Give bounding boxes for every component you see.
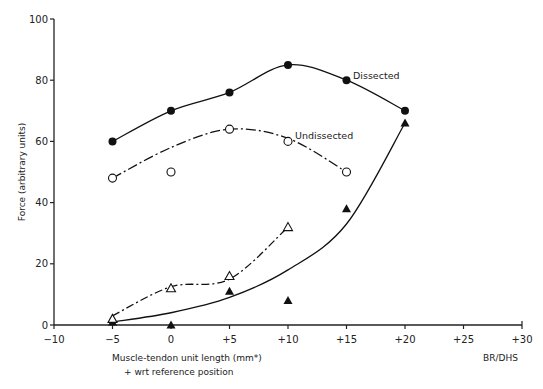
x-tick-label: 0 bbox=[168, 334, 174, 345]
y-tick-label: 100 bbox=[29, 14, 48, 25]
open-circle-marker bbox=[167, 168, 175, 176]
open-triangle-marker bbox=[225, 272, 234, 280]
open-triangle-marker bbox=[108, 314, 117, 322]
filled-circle-marker bbox=[167, 107, 175, 115]
open-circle-marker bbox=[343, 168, 351, 176]
x-tick-label: −10 bbox=[43, 334, 64, 345]
x-tick-label: +15 bbox=[336, 334, 357, 345]
credit-label: BR/DHS bbox=[483, 353, 518, 363]
filled-triangle-marker bbox=[225, 287, 234, 295]
filled-circle-marker bbox=[343, 76, 351, 84]
undissected-passive-curve bbox=[113, 227, 289, 316]
open-circle-marker bbox=[284, 137, 292, 145]
y-axis-title: Force (arbitrary units) bbox=[17, 123, 27, 221]
x-tick-label: +10 bbox=[277, 334, 298, 345]
y-tick-label: 0 bbox=[42, 320, 48, 331]
open-circle-marker bbox=[226, 125, 234, 133]
x-tick-label: −5 bbox=[105, 334, 120, 345]
series-label-undissected: Undissected bbox=[295, 130, 353, 141]
x-tick-label: +20 bbox=[394, 334, 415, 345]
series-label-dissected: Dissected bbox=[353, 70, 400, 81]
filled-circle-marker bbox=[401, 107, 409, 115]
filled-triangle-marker bbox=[284, 296, 293, 304]
open-triangle-marker bbox=[284, 223, 293, 231]
filled-circle-marker bbox=[284, 61, 292, 69]
fit-curves bbox=[113, 65, 406, 322]
data-markers bbox=[108, 61, 410, 329]
x-axis-note: + wrt reference position bbox=[124, 367, 233, 377]
filled-circle-marker bbox=[226, 88, 234, 96]
open-triangle-marker bbox=[167, 284, 176, 292]
x-tick-label: +25 bbox=[453, 334, 474, 345]
force-length-chart: 020406080100−10−50+5+10+15+20+25+30 Diss… bbox=[0, 0, 543, 389]
y-tick-label: 60 bbox=[35, 136, 48, 147]
x-tick-label: +30 bbox=[511, 334, 532, 345]
y-tick-label: 80 bbox=[35, 75, 48, 86]
filled-circle-marker bbox=[109, 137, 117, 145]
x-tick-label: +5 bbox=[222, 334, 237, 345]
y-tick-label: 40 bbox=[35, 197, 48, 208]
filled-triangle-marker bbox=[401, 119, 410, 127]
y-tick-label: 20 bbox=[35, 258, 48, 269]
x-axis-title: Muscle-tendon unit length (mm*) bbox=[112, 353, 262, 363]
filled-triangle-marker bbox=[342, 204, 351, 212]
axes: 020406080100−10−50+5+10+15+20+25+30 bbox=[29, 14, 533, 346]
open-circle-marker bbox=[109, 174, 117, 182]
